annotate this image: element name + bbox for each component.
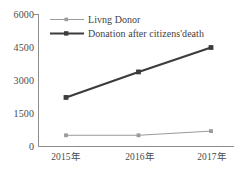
y-tick-label-0: 0: [2, 142, 34, 152]
x-tick-label-2016: 2016年: [116, 152, 164, 162]
line-chart: Livng Donor Donation after citizens'deat…: [0, 0, 243, 171]
legend-marks: [50, 18, 84, 36]
data-point-0-1: [137, 133, 141, 137]
legend-entry-label-living-donor: Livng Donor: [88, 14, 141, 25]
data-point-1-0: [64, 95, 69, 100]
series-layer: [64, 45, 214, 137]
data-point-0-0: [64, 133, 68, 137]
y-tick-label-1500: 1500: [2, 109, 34, 119]
chart-plot-area: [0, 0, 243, 171]
legend-entry-label-donation-after-death: Donation after citizens'death: [88, 28, 204, 39]
y-tick-label-3000: 3000: [2, 76, 34, 86]
data-point-0-2: [209, 129, 213, 133]
data-point-1-2: [209, 45, 214, 50]
x-tick-label-2015: 2015年: [42, 152, 90, 162]
legend-swatch-marker-0: [65, 18, 69, 22]
y-tick-label-4500: 4500: [2, 43, 34, 53]
data-point-1-1: [136, 70, 141, 75]
legend-swatch-marker-1: [64, 31, 68, 35]
x-tick-label-2017: 2017年: [188, 152, 236, 162]
y-tick-label-6000: 6000: [2, 10, 34, 20]
